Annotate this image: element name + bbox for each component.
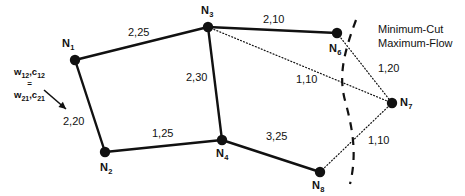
minimum-cut-curve-group	[342, 20, 356, 184]
edge-n3-n7	[208, 27, 392, 103]
node-n2[interactable]	[100, 147, 110, 157]
edge-label-n3-n4: 2,30	[186, 72, 207, 83]
node-label-n1: N1	[62, 38, 75, 52]
edge-n1-n2	[75, 60, 105, 152]
node-label-n6: N6	[329, 43, 342, 57]
edge-n3-n6	[208, 27, 337, 33]
dotted-edges-group	[208, 27, 392, 172]
edge-n2-n4	[105, 140, 222, 152]
edge-label-n4-n8: 3,25	[266, 131, 287, 142]
node-n1[interactable]	[70, 55, 80, 65]
edge-label-n3-n6: 2,10	[263, 14, 284, 25]
edge-n4-n8	[222, 140, 320, 172]
node-n7[interactable]	[387, 98, 397, 108]
node-n8[interactable]	[315, 167, 325, 177]
minimum-cut-maximum-flow-label: Minimum-Cut Maximum-Flow	[378, 23, 453, 51]
edge-label-n1-n3: 2,25	[128, 27, 149, 38]
graph-figure: 2,252,201,252,302,101,103,251,201,10N1N2…	[0, 0, 465, 196]
cut-label-line-2: Maximum-Flow	[378, 37, 453, 49]
edge-label-n2-n4: 1,25	[152, 128, 173, 139]
annotation-line-1: w12,c12	[14, 66, 45, 77]
node-label-n8: N8	[312, 180, 325, 194]
edge-label-n1-n2: 2,20	[63, 116, 84, 127]
edge-label-n8-n7: 1,10	[368, 135, 389, 146]
edge-label-n3-n7: 1,10	[296, 74, 317, 85]
solid-edges-group	[75, 27, 337, 172]
edge-label-n6-n7: 1,20	[378, 63, 399, 74]
node-n3[interactable]	[203, 22, 213, 32]
node-label-n7: N7	[400, 97, 413, 111]
annotation-line-2: w21,c21	[14, 89, 45, 100]
node-n6[interactable]	[332, 28, 342, 38]
annotation-arrow-group	[44, 90, 66, 109]
minimum-cut-dashed-curve	[342, 20, 356, 184]
cut-label-line-1: Minimum-Cut	[378, 23, 443, 35]
node-label-n3: N3	[201, 5, 214, 19]
edge-n3-n4	[208, 27, 222, 140]
node-label-n2: N2	[100, 162, 113, 176]
weight-capacity-annotation: w12,c12 = w21,c21	[14, 66, 45, 103]
node-label-n4: N4	[216, 148, 229, 162]
node-n4[interactable]	[217, 135, 227, 145]
graph-nodes-group	[70, 22, 397, 177]
